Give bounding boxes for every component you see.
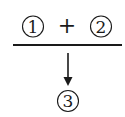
plus-operator: +: [58, 13, 76, 38]
result-label: 3: [63, 91, 74, 111]
combination-diagram: 1 + 2 3: [0, 0, 125, 117]
term-1-label: 1: [28, 17, 39, 37]
circled-number-2: 2: [91, 16, 112, 37]
circled-number-3: 3: [58, 91, 79, 112]
term-2-label: 2: [96, 17, 107, 37]
circled-number-1: 1: [23, 16, 44, 37]
down-arrow-icon: [64, 53, 73, 86]
